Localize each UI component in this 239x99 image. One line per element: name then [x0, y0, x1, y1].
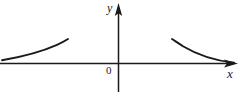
x-axis-label: x	[227, 67, 233, 80]
curve-left-branch	[2, 39, 68, 60]
y-axis-label: y	[107, 2, 112, 14]
origin-label: 0	[106, 65, 112, 76]
plot-canvas	[0, 0, 239, 99]
graph-figure: y x 0	[0, 0, 239, 99]
curve-right-branch	[172, 39, 234, 63]
